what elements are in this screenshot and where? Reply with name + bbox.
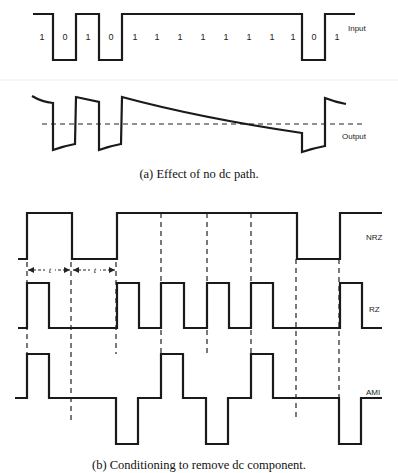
bit-label: 1	[200, 32, 205, 42]
nrz-waveform	[18, 213, 382, 259]
nrz-label: NRZ	[366, 233, 383, 242]
caption-a: (a) Effect of no dc path.	[139, 167, 258, 181]
ami-waveform	[15, 354, 382, 444]
caption-b: (b) Conditioning to remove dc component.	[92, 458, 306, 472]
bit-label: 0	[62, 32, 67, 42]
bit-label: 1	[132, 32, 137, 42]
rz-waveform	[18, 283, 382, 328]
ami-label: AMI	[366, 388, 380, 397]
output-label: Output	[342, 132, 367, 141]
bit-label: 1	[39, 32, 44, 42]
bit-label: 1	[290, 32, 295, 42]
bit-label: 1	[223, 32, 228, 42]
bit-label: 1	[154, 32, 159, 42]
bit-label: 0	[311, 32, 316, 42]
bit-label: 1	[269, 32, 274, 42]
bit-label: 1	[334, 32, 339, 42]
bit-label: 0	[108, 32, 113, 42]
input-label: Input	[348, 24, 367, 33]
bit-label: 1	[246, 32, 251, 42]
input-bit-labels: 1 0 1 0 1 1 1 1 1 1 1 1 0 1	[39, 32, 339, 42]
bit-label: 1	[85, 32, 90, 42]
bit-label: 1	[177, 32, 182, 42]
line-coding-diagram: 1 0 1 0 1 1 1 1 1 1 1 1 0 1 Input Output…	[0, 0, 398, 473]
input-waveform	[33, 14, 355, 60]
rz-label: RZ	[369, 305, 380, 314]
